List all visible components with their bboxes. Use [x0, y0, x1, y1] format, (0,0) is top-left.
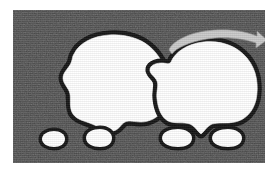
figure-root: Two-stage blob deformation diagram: [0, 0, 277, 177]
stage-1-satellite-right-fill: [86, 129, 112, 147]
stage-2-satellite-left-fill: [162, 129, 192, 147]
stage-1-blob-group: [63, 35, 168, 131]
diagram-canvas: [13, 10, 265, 163]
figure-title: Two-stage blob deformation diagram: [0, 0, 1, 1]
stage-1-satellite-left-fill: [42, 131, 65, 147]
stage-2-satellite-right-fill: [212, 129, 242, 147]
stage-1-blob-fill: [63, 35, 168, 131]
figure-caption: [0, 0, 1, 1]
diagram-panel: [13, 10, 265, 163]
